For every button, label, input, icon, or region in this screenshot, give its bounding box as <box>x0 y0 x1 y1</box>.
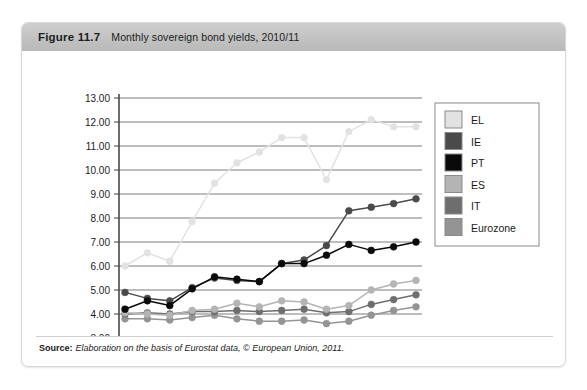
legend-label: Eurozone <box>471 222 516 234</box>
legend-swatch <box>445 154 462 171</box>
legend-swatch <box>445 176 462 193</box>
data-point <box>211 306 218 313</box>
data-point <box>390 123 397 130</box>
source-note: Source:Elaboration on the basis of Euros… <box>39 343 344 353</box>
data-point <box>256 318 263 325</box>
legend-item-eurozone[interactable]: Eurozone <box>445 219 516 236</box>
data-point <box>345 128 352 135</box>
data-point <box>390 281 397 288</box>
data-point <box>390 307 397 314</box>
data-point <box>368 301 375 308</box>
data-point <box>413 123 420 130</box>
data-point <box>166 302 173 309</box>
data-point <box>122 263 129 270</box>
data-point <box>301 306 308 313</box>
series-line <box>125 120 416 266</box>
data-point <box>413 303 420 310</box>
data-point <box>256 303 263 310</box>
data-point <box>122 289 129 296</box>
data-point <box>234 307 241 314</box>
bond-yields-line-chart: 13.0012.0011.0010.009.008.007.006.005.00… <box>22 51 565 336</box>
data-point <box>413 291 420 298</box>
data-point <box>278 307 285 314</box>
legend-swatch <box>445 133 462 150</box>
data-point <box>323 320 330 327</box>
data-point <box>368 312 375 319</box>
data-point <box>211 273 218 280</box>
y-tick-label: 6.00 <box>91 261 111 272</box>
data-point <box>189 285 196 292</box>
data-point <box>234 159 241 166</box>
data-point <box>122 306 129 313</box>
legend-label: IE <box>471 136 481 148</box>
data-point <box>144 311 151 318</box>
data-point <box>301 260 308 267</box>
legend-swatch <box>445 111 462 128</box>
data-point <box>234 315 241 322</box>
data-point <box>390 296 397 303</box>
y-tick-label: 7.00 <box>91 237 111 248</box>
data-point <box>323 242 330 249</box>
y-tick-label: 4.00 <box>91 309 111 320</box>
data-point <box>166 312 173 319</box>
data-point <box>345 207 352 214</box>
source-divider <box>36 336 553 337</box>
data-point <box>301 317 308 324</box>
y-tick-label: 9.00 <box>91 189 111 200</box>
data-point <box>301 299 308 306</box>
y-tick-label: 5.00 <box>91 285 111 296</box>
data-point <box>368 287 375 294</box>
y-tick-label: 10.00 <box>85 165 110 176</box>
data-point <box>278 260 285 267</box>
legend-label: ES <box>471 179 485 191</box>
data-point <box>368 247 375 254</box>
data-point <box>345 318 352 325</box>
figure-number: Figure 11.7 <box>38 31 100 43</box>
data-point <box>345 241 352 248</box>
data-point <box>278 134 285 141</box>
series-el <box>122 116 420 269</box>
data-point <box>189 307 196 314</box>
data-point <box>256 278 263 285</box>
source-label: Source: <box>39 343 73 353</box>
data-point <box>368 204 375 211</box>
chart-plot-area: 13.0012.0011.0010.009.008.007.006.005.00… <box>22 51 565 336</box>
data-point <box>278 297 285 304</box>
legend-swatch <box>445 219 462 236</box>
figure-page: Figure 11.7 Monthly sovereign bond yield… <box>0 0 587 390</box>
data-point <box>301 134 308 141</box>
legend-swatch <box>445 197 462 214</box>
data-point <box>278 318 285 325</box>
figure-header: Figure 11.7 Monthly sovereign bond yield… <box>22 23 565 51</box>
y-tick-label: 12.00 <box>85 117 110 128</box>
data-point <box>368 116 375 123</box>
figure-title: Monthly sovereign bond yields, 2010/11 <box>111 31 299 43</box>
legend-label: PT <box>471 157 485 169</box>
data-point <box>413 239 420 246</box>
data-point <box>323 306 330 313</box>
data-point <box>413 277 420 284</box>
figure-box: Figure 11.7 Monthly sovereign bond yield… <box>21 22 566 367</box>
data-point <box>390 200 397 207</box>
data-point <box>234 300 241 307</box>
data-point <box>413 195 420 202</box>
legend-label: EL <box>471 114 484 126</box>
y-tick-label: 11.00 <box>86 141 111 152</box>
legend-label: IT <box>471 200 481 212</box>
data-point <box>345 302 352 309</box>
data-point <box>166 258 173 265</box>
data-point <box>390 243 397 250</box>
y-tick-label: 8.00 <box>91 213 111 224</box>
source-text: Elaboration on the basis of Eurostat dat… <box>76 343 345 353</box>
data-point <box>234 276 241 283</box>
data-point <box>323 252 330 259</box>
series-es <box>122 277 420 319</box>
data-point <box>323 176 330 183</box>
data-point <box>189 218 196 225</box>
y-tick-label: 13.00 <box>85 93 110 104</box>
data-point <box>211 180 218 187</box>
data-point <box>144 249 151 256</box>
data-point <box>144 297 151 304</box>
data-point <box>256 149 263 156</box>
